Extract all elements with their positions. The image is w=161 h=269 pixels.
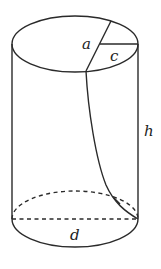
- cylinder-diagram: a c h d: [0, 0, 161, 269]
- label-a: a: [82, 35, 91, 53]
- label-h: h: [144, 122, 154, 140]
- label-d: d: [70, 226, 80, 244]
- helical-cut-curve: [86, 71, 138, 219]
- label-c: c: [110, 47, 119, 65]
